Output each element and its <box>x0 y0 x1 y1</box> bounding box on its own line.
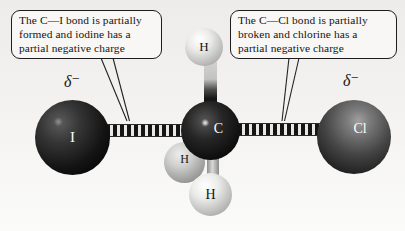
callout-text-line: The C—Cl bond is partially <box>238 14 389 28</box>
callout-text-line: formed and iodine has a <box>19 28 154 42</box>
atom-label-iodine: I <box>70 129 75 146</box>
callout-c-cl-bond: The C—Cl bond is partially broken and ch… <box>230 10 397 59</box>
delta-minus-label-chlorine: δ⁻ <box>343 71 359 90</box>
delta-minus-label-iodine: δ⁻ <box>64 72 80 91</box>
atom-hydrogen-top: H <box>185 28 223 66</box>
callout-c-i-bond: The C—I bond is partially formed and iod… <box>11 10 162 59</box>
reaction-transition-state-diagram: The C—I bond is partially formed and iod… <box>0 0 405 231</box>
callout-text-line: broken and chlorine has a <box>238 28 389 42</box>
callout-text-line: The C—I bond is partially <box>19 14 154 28</box>
callout-text-line: partial negative charge <box>19 42 154 56</box>
atom-label-carbon: C <box>214 121 223 137</box>
partial-bond-c-i <box>106 124 185 137</box>
atom-hydrogen-bottom: H <box>189 173 232 216</box>
atom-label-chlorine: Cl <box>353 121 366 137</box>
atom-chlorine: Cl <box>317 100 391 174</box>
atom-carbon: C <box>181 101 240 160</box>
callout-text-line: partial negative charge <box>238 42 389 56</box>
partial-bond-c-cl <box>238 123 320 136</box>
atom-label-hydrogen-back: H <box>180 152 189 167</box>
atom-label-hydrogen-top: H <box>199 39 208 55</box>
atom-label-hydrogen-bottom: H <box>205 187 215 203</box>
atom-iodine: I <box>35 100 110 175</box>
